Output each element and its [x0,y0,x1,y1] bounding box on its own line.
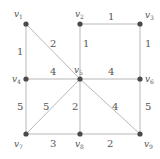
node-v6 [137,76,142,81]
label-v1: v1 [14,9,23,20]
node-v2 [77,21,82,26]
weight-v6-v9: 5 [145,101,151,112]
node-v4 [23,76,28,81]
edge-v5-v9 [80,79,140,134]
node-v1 [23,21,28,26]
label-v9: v9 [144,139,153,150]
node-v5 [77,76,82,81]
node-v8 [77,131,82,136]
weight-v4-v7: 5 [17,101,23,112]
weight-v1-v5: 2 [50,38,56,49]
edge-weights: 1 1 2 1 1 4 4 5 5 2 4 5 3 2 [17,11,151,149]
label-v7: v7 [14,139,23,150]
weight-v8-v9: 2 [107,138,113,149]
weight-v1-v4: 1 [17,46,23,57]
node-v7 [23,131,28,136]
weight-v5-v9: 4 [112,101,118,112]
node-v9 [137,131,142,136]
weight-v5-v6: 4 [108,66,114,77]
weight-v7-v8: 3 [50,138,56,149]
weight-v2-v5: 1 [83,38,89,49]
node-v3 [137,21,142,26]
label-v8: v8 [75,139,84,150]
label-v6: v6 [145,74,154,85]
weight-v5-v7: 5 [43,101,49,112]
label-v2: v2 [75,9,84,20]
weight-v3-v6: 1 [145,38,151,49]
label-v3: v3 [145,10,154,21]
label-v5: v5 [74,65,83,76]
label-v4: v4 [12,74,21,85]
weight-v5-v8: 2 [72,101,78,112]
graph-diagram: 1 1 2 1 1 4 4 5 5 2 4 5 3 2 v1 v2 v3 v4 … [0,0,160,159]
weight-v4-v5: 4 [50,66,56,77]
weight-v2-v3: 1 [108,11,114,22]
